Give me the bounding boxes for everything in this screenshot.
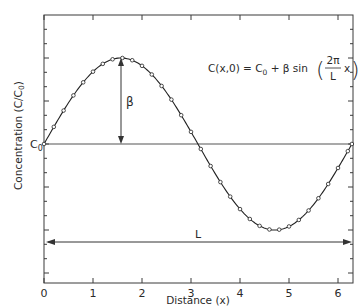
data-point-marker: [228, 195, 232, 199]
data-point-marker: [199, 147, 203, 151]
eq-numerator: 2π: [326, 54, 340, 66]
sine-concentration-chart: β L C0 0 1 2 3 4 5 6 Distance (x) Concen…: [0, 0, 362, 307]
data-point-marker: [52, 125, 56, 129]
data-point-marker: [62, 109, 66, 113]
svg-text:C(x,0) = C0 + β sin: C(x,0) = C0 + β sin: [208, 62, 308, 77]
plot-frame: [44, 15, 353, 283]
x-tick-label-6: 6: [335, 287, 342, 300]
data-point-marker: [238, 207, 242, 211]
data-point-marker: [258, 224, 262, 228]
data-point-marker: [219, 180, 223, 184]
data-point-marker: [248, 217, 252, 221]
x-axis-ticks: [44, 15, 338, 283]
data-point-marker: [140, 64, 144, 68]
data-point-marker: [350, 142, 354, 146]
data-point-marker: [317, 196, 321, 200]
eq-denominator: L: [330, 70, 336, 82]
data-point-marker: [101, 62, 105, 66]
data-point-marker: [72, 94, 76, 98]
wavelength-label: L: [195, 228, 202, 241]
data-point-marker: [277, 228, 281, 232]
right-paren: ): [351, 57, 360, 82]
data-point-marker: [179, 113, 183, 117]
data-point-marker: [297, 218, 301, 222]
data-point-marker: [189, 130, 193, 134]
data-point-marker: [130, 58, 134, 62]
beta-label: β: [126, 95, 134, 109]
x-tick-label-2: 2: [139, 287, 146, 300]
data-point-marker: [307, 209, 311, 213]
x-tick-label-5: 5: [286, 287, 293, 300]
x-tick-label-1: 1: [90, 287, 97, 300]
data-point-marker: [111, 57, 115, 61]
y-axis-label: Concentration (C/C0): [12, 81, 26, 190]
data-point-marker: [150, 73, 154, 77]
x-tick-label-4: 4: [237, 287, 244, 300]
left-paren: (: [316, 57, 325, 82]
data-point-marker: [81, 81, 85, 85]
data-point-marker: [346, 149, 350, 153]
c0-tick-label: C0: [30, 138, 43, 153]
equation: C(x,0) = C0 + β sin ( 2π L x ): [208, 54, 360, 82]
data-point-marker: [160, 84, 164, 88]
x-axis-label: Distance (x): [166, 294, 230, 306]
beta-amplitude-arrow: [118, 58, 124, 144]
data-point-marker: [209, 164, 213, 168]
data-point-marker: [326, 182, 330, 186]
data-point-marker: [170, 98, 174, 102]
data-point-marker: [268, 228, 272, 232]
data-point-marker: [336, 166, 340, 170]
data-point-marker: [287, 225, 291, 229]
eq-x: x: [344, 62, 350, 74]
data-point-marker: [91, 70, 95, 74]
x-tick-label-0: 0: [41, 287, 48, 300]
